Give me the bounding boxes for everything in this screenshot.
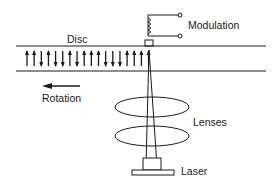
arrow-down-icon (54, 51, 58, 67)
arrow-up-icon (125, 50, 129, 66)
arrow-down-icon (39, 51, 43, 67)
modulation-coil-icon (145, 13, 182, 46)
rotation-arrow-icon (42, 83, 80, 89)
arrow-up-icon (32, 50, 36, 66)
lenses-label: Lenses (193, 116, 227, 128)
disc-label: Disc (67, 33, 87, 45)
arrow-up-icon (82, 50, 86, 66)
arrow-up-icon (132, 50, 136, 66)
laser-label: Laser (181, 165, 207, 177)
modulation-label: Modulation (188, 19, 239, 31)
arrow-up-icon (68, 50, 72, 66)
arrow-up-icon (139, 50, 143, 66)
magnetic-domain-arrows (25, 50, 151, 67)
arrow-down-icon (111, 51, 115, 67)
rotation-label: Rotation (42, 92, 81, 104)
arrow-up-icon (46, 50, 50, 66)
arrow-down-icon (104, 51, 108, 67)
arrow-down-icon (61, 51, 65, 67)
arrow-up-icon (25, 50, 29, 66)
arrow-up-icon (97, 50, 101, 66)
arrow-down-icon (75, 51, 79, 67)
arrow-up-icon (89, 50, 93, 66)
arrow-down-icon (118, 51, 122, 67)
laser-beam (146, 50, 157, 166)
laser-icon (132, 158, 174, 175)
lower-lens (115, 126, 189, 146)
